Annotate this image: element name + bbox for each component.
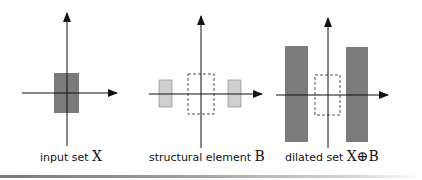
dilation-diagram: input set X structural element B dilated… [0,0,422,180]
panel-label: dilated set X⊕B [285,148,379,164]
panel-structural-element: structural element B [149,16,265,164]
bottom-divider [0,175,422,178]
panel-dilated-set: dilated set X⊕B [276,18,388,164]
panel-label: structural element B [149,148,265,164]
panel-input-set: input set X [22,13,117,164]
dilated-rect-left [285,46,308,142]
panel-label: input set X [40,148,102,164]
